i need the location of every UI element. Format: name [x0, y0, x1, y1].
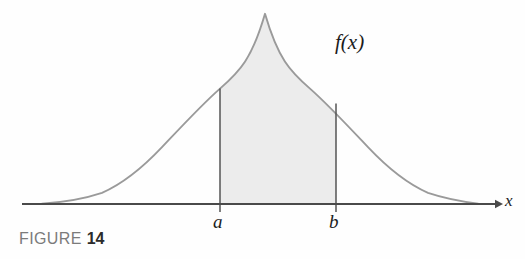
figure-caption: FIGURE 14 [19, 231, 105, 247]
figure-caption-number: 14 [87, 230, 105, 247]
shaded-area-group [42, 14, 478, 204]
x-axis-arrowhead-icon [495, 200, 503, 208]
axis-label-x: x [505, 192, 513, 209]
figure-caption-word: FIGURE [19, 230, 82, 247]
axis-label-a: a [213, 212, 223, 231]
curve-label-fx: f(x) [335, 32, 364, 53]
figure-graphic [0, 0, 525, 259]
axis-label-b: b [329, 212, 339, 231]
figure-container: a b x f(x) FIGURE 14 [0, 0, 525, 259]
shaded-area-under-curve [42, 14, 478, 204]
